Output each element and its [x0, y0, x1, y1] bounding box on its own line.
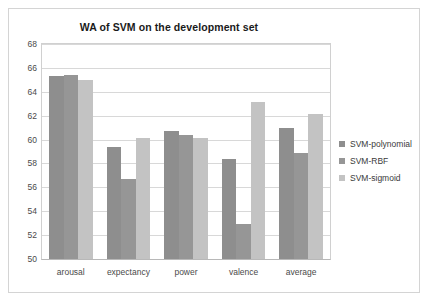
bar[interactable] — [294, 153, 309, 259]
chart-title: WA of SVM on the development set — [9, 21, 329, 33]
legend-label: SVM-sigmoid — [350, 173, 401, 183]
bar-group — [215, 44, 273, 259]
x-axis-tick-label: average — [272, 267, 330, 277]
bar[interactable] — [251, 102, 266, 259]
bar-group — [272, 44, 330, 259]
plot-area: 50525456586062646668 arousalexpectancypo… — [41, 43, 331, 260]
y-axis-tick-label: 60 — [28, 135, 37, 145]
bar-group — [100, 44, 158, 259]
bar[interactable] — [193, 138, 208, 259]
bar[interactable] — [78, 80, 93, 259]
y-axis-tick-label: 50 — [28, 254, 37, 264]
legend-item[interactable]: SVM-RBF — [339, 156, 429, 166]
x-axis-tick-label: power — [157, 267, 215, 277]
bars-layer — [42, 44, 330, 259]
bar[interactable] — [64, 75, 79, 259]
bar-group — [157, 44, 215, 259]
y-axis-tick-label: 56 — [28, 182, 37, 192]
y-axis-tick-label: 66 — [28, 63, 37, 73]
bar[interactable] — [49, 76, 64, 259]
y-axis-tick-label: 64 — [28, 87, 37, 97]
bar[interactable] — [222, 159, 237, 259]
bar[interactable] — [107, 147, 122, 259]
legend-item[interactable]: SVM-sigmoid — [339, 173, 429, 183]
legend-label: SVM-polynomial — [350, 139, 412, 149]
y-axis-tick-label: 52 — [28, 230, 37, 240]
bar[interactable] — [121, 179, 136, 259]
legend-swatch-icon — [339, 158, 345, 164]
x-axis-tick-label: expectancy — [100, 267, 158, 277]
bar[interactable] — [308, 114, 323, 259]
legend-item[interactable]: SVM-polynomial — [339, 139, 429, 149]
bar-group — [42, 44, 100, 259]
y-axis-tick-label: 54 — [28, 206, 37, 216]
y-axis-tick-label: 68 — [28, 39, 37, 49]
y-axis-tick-label: 62 — [28, 111, 37, 121]
bar[interactable] — [136, 138, 151, 259]
chart-legend: SVM-polynomialSVM-RBFSVM-sigmoid — [339, 139, 429, 190]
legend-swatch-icon — [339, 175, 345, 181]
bar[interactable] — [279, 128, 294, 259]
bar[interactable] — [179, 135, 194, 259]
chart-frame: WA of SVM on the development set 5052545… — [8, 8, 420, 293]
x-axis-tick-label: arousal — [42, 267, 100, 277]
x-axis-tick-label: valence — [215, 267, 273, 277]
bar[interactable] — [164, 131, 179, 259]
legend-label: SVM-RBF — [350, 156, 388, 166]
bar[interactable] — [236, 224, 251, 259]
legend-swatch-icon — [339, 141, 345, 147]
y-axis-tick-label: 58 — [28, 158, 37, 168]
